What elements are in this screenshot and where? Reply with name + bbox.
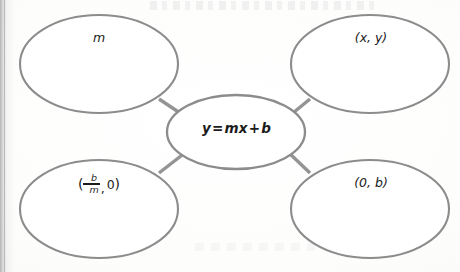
node-label-top-left: m xyxy=(20,30,178,45)
node-label-top-right: (x, y) xyxy=(292,30,450,45)
diagram-page: m (x, y) (0, b) ( b m , 0 ) y=mx+b xyxy=(0,0,460,272)
second-coordinate: 0 xyxy=(107,177,115,192)
equation-lhs: y xyxy=(202,120,211,136)
equation-rhs-term-2: b xyxy=(261,120,271,136)
fraction-denominator: m xyxy=(88,185,99,195)
page-gutter-shadow xyxy=(0,0,16,272)
equation-rhs-term-1: mx xyxy=(224,120,247,136)
close-paren: ) xyxy=(115,177,120,191)
node-label-center: y=mx+b xyxy=(168,120,305,136)
page-gutter-line xyxy=(4,0,5,272)
comma-separator: , xyxy=(101,181,105,198)
node-label-bottom-right: (0, b) xyxy=(292,175,450,190)
fraction-numerator: b xyxy=(90,173,98,183)
node-label-bottom-left: ( b m , 0 ) xyxy=(20,170,178,198)
fraction-b-over-m: b m xyxy=(88,173,99,195)
equation-equals-sign: = xyxy=(211,120,225,136)
equation-plus-sign: + xyxy=(248,120,262,136)
